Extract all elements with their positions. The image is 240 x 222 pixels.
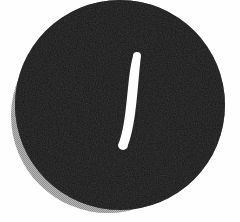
icon-canvas: [0, 0, 240, 222]
icon-artboard: Black circular button with a white diago…: [0, 0, 240, 222]
